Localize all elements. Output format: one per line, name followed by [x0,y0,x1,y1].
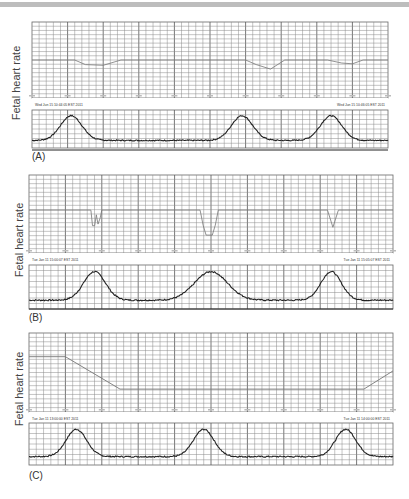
timestamp-right: Tue Jan 11 15:05:07 EST 2011 [344,258,391,262]
panel-label-a: (A) [32,151,45,162]
panel-label-c: (C) [29,470,43,481]
timestamp-left: Tue Jan 11 13:00:00 EST 2011 [32,417,79,421]
timestamp-right: Wed Jun 15 10:46:05 EST 2011 [337,103,385,107]
panel-c: Fetal heart rate Tue Jan 11 13:00:00 EST… [0,330,409,499]
ctg-strip-b: Tue Jan 11 15:00:07 EST 2011Tue Jan 11 1… [0,165,409,330]
timestamp-left: Wed Jun 15 10:44:05 EST 2011 [35,103,83,107]
timestamp-right: Tue Jan 11 14:00:00 EST 2011 [344,417,391,421]
timestamp-left: Tue Jan 11 15:00:07 EST 2011 [32,258,79,262]
ctg-strip-c: Tue Jan 11 13:00:00 EST 2011Tue Jan 11 1… [0,330,409,499]
ctg-strip-a: Wed Jun 15 10:44:05 EST 2011Wed Jun 15 1… [0,0,409,165]
panel-b: Fetal heart rate Tue Jan 11 15:00:07 EST… [0,165,409,330]
panel-label-b: (B) [29,312,42,323]
panel-a: Fetal heart rate Wed Jun 15 10:44:05 EST… [0,0,409,165]
